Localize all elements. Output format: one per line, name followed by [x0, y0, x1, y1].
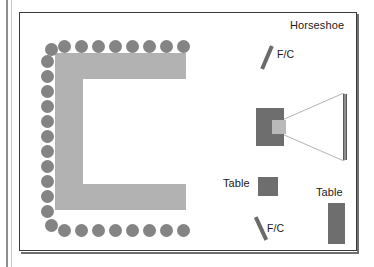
chair-top-8: [177, 40, 190, 53]
diagram-canvas: Horseshoe F/C Table F/C Table: [0, 0, 374, 267]
chair-bottom-4: [109, 224, 122, 237]
chair-left-5: [41, 115, 54, 128]
room-frame-shadow-right: [357, 14, 359, 254]
chair-left-8: [41, 160, 54, 173]
page-gutter-line: [6, 0, 8, 267]
chair-corner-2: [45, 219, 58, 232]
chair-left-11: [41, 205, 54, 218]
chair-top-6: [143, 40, 156, 53]
horseshoe-label: Horseshoe: [290, 19, 344, 31]
chair-left-1: [41, 55, 54, 68]
chair-left-7: [41, 145, 54, 158]
table-center-label: Table: [223, 177, 250, 189]
table-right-label: Table: [316, 186, 343, 198]
chair-bottom-7: [160, 224, 173, 237]
chair-top-5: [126, 40, 139, 53]
projection-beam-icon: [282, 93, 348, 161]
chair-bottom-8: [177, 224, 190, 237]
chair-left-10: [41, 190, 54, 203]
chair-bottom-5: [126, 224, 139, 237]
table-right: [328, 203, 345, 244]
projection-screen: [343, 94, 347, 160]
chair-bottom-6: [143, 224, 156, 237]
chair-left-2: [41, 70, 54, 83]
chair-top-7: [160, 40, 173, 53]
chair-corner-1: [45, 43, 58, 56]
room-frame-shadow-bottom: [21, 252, 359, 254]
page-gutter-line-secondary: [11, 0, 12, 267]
flipchart-top-label: F/C: [277, 48, 294, 60]
chair-top-2: [75, 40, 88, 53]
chair-bottom-1: [58, 224, 71, 237]
flipchart-bottom-label: F/C: [267, 222, 284, 234]
chair-top-1: [58, 40, 71, 53]
chair-left-6: [41, 130, 54, 143]
chair-top-3: [92, 40, 105, 53]
chair-left-4: [41, 100, 54, 113]
horseshoe-table-bottom-arm: [55, 184, 186, 210]
chair-bottom-3: [92, 224, 105, 237]
table-center: [258, 177, 278, 196]
chair-bottom-2: [75, 224, 88, 237]
chair-left-9: [41, 175, 54, 188]
chair-top-4: [109, 40, 122, 53]
projector-lens-icon: [272, 120, 286, 134]
chair-left-3: [41, 85, 54, 98]
